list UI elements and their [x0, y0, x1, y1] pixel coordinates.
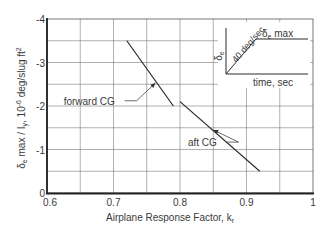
leader-line [125, 83, 156, 101]
x-tick-label: 0.9 [240, 197, 254, 208]
inset-y-label: δe [213, 51, 225, 61]
series-label: aft CG [188, 137, 217, 148]
y-tick-label: -1 [36, 145, 45, 156]
x-axis-label: Airplane Response Factor, kr [106, 212, 235, 224]
y-tick-labels: 0-1-2-3-4 [36, 14, 45, 199]
x-tick-label: 1 [310, 197, 316, 208]
series-label: forward CG [64, 96, 115, 107]
x-tick-label: 0.6 [43, 197, 57, 208]
inset-x-label: time, sec [253, 77, 293, 88]
x-tick-label: 0.7 [107, 197, 121, 208]
chart: 0.60.70.80.91 0-1-2-3-4 forward CGaft CG… [0, 0, 328, 237]
y-axis-label: δe max / Iy, 10-6 deg/slug ft2 [15, 47, 29, 169]
y-tick-label: -2 [36, 101, 45, 112]
inset-diagram: δe 40 deg/sec δe max time, sec [213, 22, 310, 88]
annotations: forward CGaft CG [64, 83, 239, 148]
y-tick-label: 0 [39, 188, 45, 199]
x-tick-label: 0.8 [173, 197, 187, 208]
y-tick-label: -4 [36, 14, 45, 25]
series-line-forward-cg [127, 41, 174, 106]
y-tick-label: -3 [36, 58, 45, 69]
inset-plateau-label: δe max [262, 28, 293, 40]
x-tick-labels: 0.60.70.80.91 [43, 197, 316, 208]
